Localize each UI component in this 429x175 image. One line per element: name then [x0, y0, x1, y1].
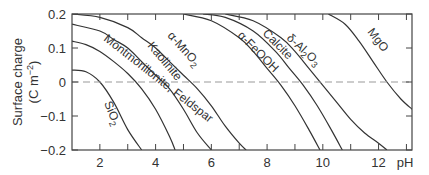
- label-mgo: MgO: [365, 25, 392, 54]
- x-tick-label: 8: [263, 155, 270, 170]
- x-tick-label: 6: [208, 155, 215, 170]
- x-tick-label: 12: [371, 155, 385, 170]
- curve-labels: SiO2Montmorillonite, FeldsparKaoliniteα-…: [99, 25, 391, 128]
- y-tick-label: −0.2: [40, 143, 66, 158]
- y-tick-label: 0: [59, 75, 66, 90]
- x-tick-label: 10: [316, 155, 330, 170]
- surface-charge-chart: 24681012 0.20.10−0.1−0.2 pH Surface char…: [0, 0, 429, 175]
- x-axis-title: pH: [397, 155, 414, 170]
- x-tick-label: 4: [152, 155, 159, 170]
- label-sio2: SiO2: [99, 99, 123, 128]
- y-axis-tick-labels: 0.20.10−0.1−0.2: [40, 7, 66, 158]
- curve-kaolinite: [72, 24, 211, 150]
- y-tick-label: 0.2: [48, 7, 66, 22]
- y-tick-label: −0.1: [40, 109, 66, 124]
- y-tick-label: 0.1: [48, 41, 66, 56]
- x-tick-label: 2: [96, 155, 103, 170]
- svg-text:Surface charge: Surface charge: [10, 38, 25, 126]
- svg-text:(C m−2): (C m−2): [25, 61, 41, 104]
- x-axis-tick-labels: 24681012: [96, 155, 386, 170]
- y-axis-title: Surface charge (C m−2): [10, 38, 41, 126]
